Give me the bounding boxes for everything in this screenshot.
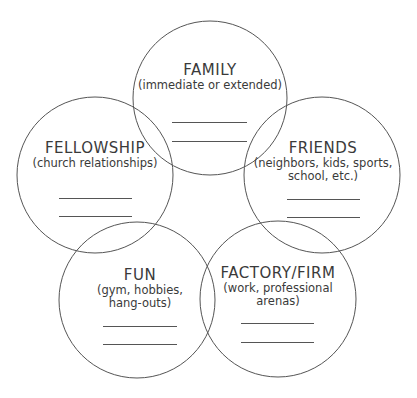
factory-firm-title: FACTORY/FIRM — [198, 264, 358, 282]
family-title: FAMILY — [130, 61, 290, 79]
fun-title: FUN — [60, 266, 220, 284]
fun-label: FUN (gym, hobbies, hang-outs) — [60, 266, 220, 310]
fellowship-subtitle: (church relationships) — [15, 157, 175, 170]
five-f-diagram: FAMILY (immediate or extended) FELLOWSHI… — [0, 0, 417, 398]
family-blank-line-1[interactable] — [172, 122, 247, 123]
fellowship-label: FELLOWSHIP (church relationships) — [15, 139, 175, 170]
factory-firm-blank-line-1[interactable] — [241, 323, 314, 324]
fellowship-title: FELLOWSHIP — [15, 139, 175, 157]
fellowship-blank-line-1[interactable] — [59, 198, 132, 199]
fellowship-blank-line-2[interactable] — [59, 216, 132, 217]
friends-title: FRIENDS — [243, 139, 403, 157]
fun-blank-line-1[interactable] — [103, 326, 177, 327]
family-subtitle: (immediate or extended) — [130, 79, 290, 92]
fun-blank-line-2[interactable] — [103, 344, 177, 345]
friends-blank-line-2[interactable] — [287, 217, 360, 218]
factory-firm-blank-line-2[interactable] — [241, 342, 314, 343]
friends-subtitle-line-2: school, etc.) — [243, 170, 403, 183]
factory-firm-subtitle-line-2: arenas) — [198, 295, 358, 308]
factory-firm-label: FACTORY/FIRM (work, professional arenas) — [198, 264, 358, 308]
fellowship-circle — [17, 97, 173, 253]
friends-blank-line-1[interactable] — [287, 199, 360, 200]
friends-label: FRIENDS (neighbors, kids, sports, school… — [243, 139, 403, 183]
family-blank-line-2[interactable] — [172, 141, 247, 142]
fun-subtitle-line-2: hang-outs) — [60, 297, 220, 310]
family-label: FAMILY (immediate or extended) — [130, 61, 290, 92]
